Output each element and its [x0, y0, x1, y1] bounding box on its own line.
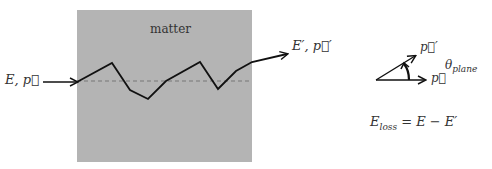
diagram-canvas	[0, 0, 492, 169]
energy-loss-rhs: = E − E′	[401, 114, 457, 129]
outgoing-label: E′, p⃗′	[292, 38, 332, 53]
vector-p-prime-label: p⃗′	[420, 40, 438, 54]
energy-loss-subscript: loss	[380, 122, 398, 132]
angle-subscript: plane	[452, 64, 477, 74]
energy-loss-lhs: E	[370, 114, 380, 129]
incoming-label: E, p⃗	[5, 72, 39, 87]
matter-label: matter	[150, 22, 191, 36]
angle-label: θplane	[445, 58, 477, 74]
vector-p-label: p⃗	[431, 71, 446, 85]
angle-diagram	[376, 56, 425, 80]
energy-loss-equation: Eloss = E − E′	[370, 114, 457, 132]
